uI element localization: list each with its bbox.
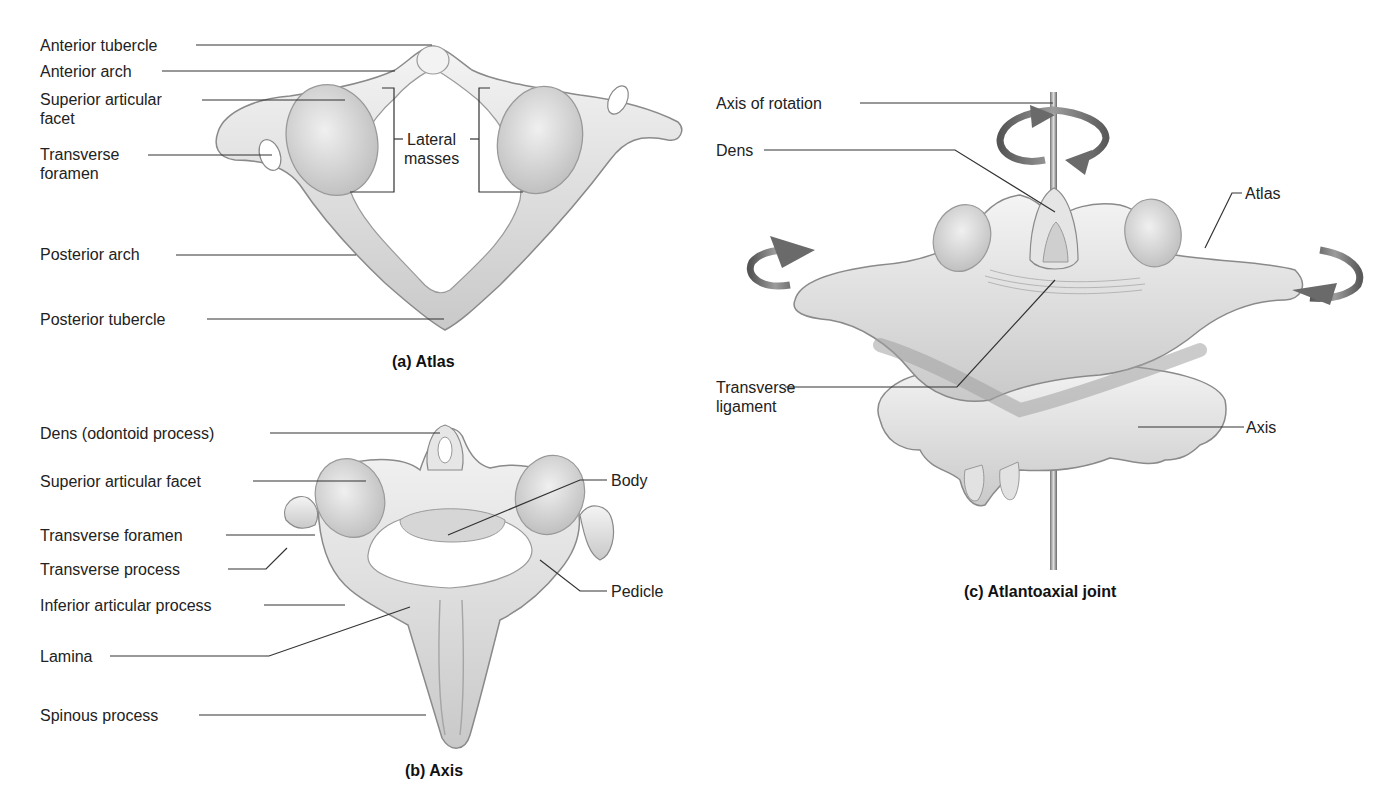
label-atlas-anterior-tubercle: Anterior tubercle (40, 36, 157, 55)
atlantoaxial-joint (794, 92, 1302, 570)
anatomy-illustration (0, 0, 1396, 790)
label-joint-axis: Axis (1246, 418, 1276, 437)
label-axis-lamina: Lamina (40, 647, 92, 666)
label-axis-superior-articular-facet: Superior articular facet (40, 472, 201, 491)
axis-vertebra (285, 425, 614, 748)
label-joint-axis-of-rotation: Axis of rotation (716, 94, 822, 113)
label-axis-dens: Dens (odontoid process) (40, 424, 214, 443)
caption-axis: (b) Axis (405, 762, 463, 780)
label-axis-transverse-foramen: Transverse foramen (40, 526, 183, 545)
label-joint-atlas: Atlas (1245, 184, 1281, 203)
label-axis-inferior-articular-process: Inferior articular process (40, 596, 212, 615)
rotation-arrow-right-icon (1292, 250, 1360, 305)
label-atlas-transverse-foramen: Transverse foramen (40, 145, 119, 183)
label-atlas-posterior-arch: Posterior arch (40, 245, 140, 264)
rotation-arrow-left-icon (750, 236, 815, 286)
label-axis-spinous-process: Spinous process (40, 706, 158, 725)
label-atlas-posterior-tubercle: Posterior tubercle (40, 310, 165, 329)
label-axis-pedicle: Pedicle (611, 582, 663, 601)
caption-atlantoaxial-joint: (c) Atlantoaxial joint (964, 583, 1116, 601)
label-atlas-lateral-masses: Lateral masses (404, 130, 459, 168)
label-atlas-anterior-arch: Anterior arch (40, 62, 132, 81)
label-axis-transverse-process: Transverse process (40, 560, 180, 579)
atlas-vertebra (216, 46, 681, 330)
label-axis-body: Body (611, 471, 647, 490)
label-joint-transverse-ligament: Transverse ligament (716, 378, 795, 416)
label-joint-dens: Dens (716, 141, 753, 160)
caption-atlas: (a) Atlas (392, 353, 455, 371)
label-atlas-superior-articular-facet: Superior articular facet (40, 90, 162, 128)
